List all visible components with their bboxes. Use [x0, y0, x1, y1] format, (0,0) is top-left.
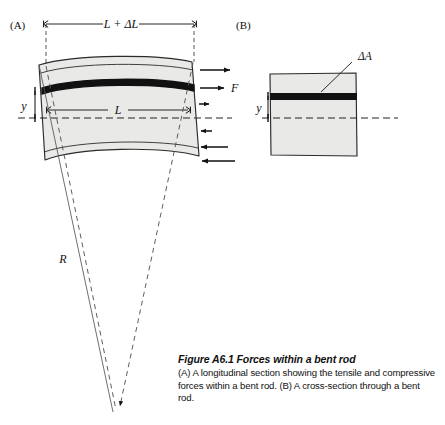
panel-label-b: (B) [236, 19, 251, 32]
area-element-band [270, 93, 357, 100]
label-radius: R [58, 252, 67, 266]
label-force: F [230, 81, 239, 95]
panel-b-group: y ΔA (B) [236, 19, 398, 156]
label-y-panel-a: y [20, 99, 27, 113]
figure-container: y L L + ΔL F R [0, 0, 445, 425]
panel-label-a: (A) [10, 19, 26, 32]
caption-body: (A) A longitudinal section showing the t… [178, 367, 436, 405]
label-top-length: L + ΔL [103, 17, 139, 31]
label-y-panel-b: y [255, 101, 262, 115]
caption-title: Figure A6.1 Forces within a bent rod [178, 352, 436, 366]
figure-caption: Figure A6.1 Forces within a bent rod (A)… [178, 352, 436, 405]
cross-section-body [270, 73, 357, 156]
label-inner-length: L [114, 103, 122, 117]
label-area-element: ΔA [357, 50, 373, 62]
